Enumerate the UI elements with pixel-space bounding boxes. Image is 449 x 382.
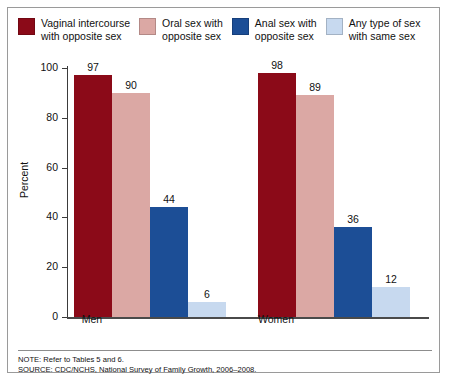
legend-label-1: Oral sex with opposite sex (162, 17, 223, 42)
legend-label-2: Anal sex with opposite sex (255, 17, 317, 42)
bar-slot: 89 (296, 66, 334, 317)
bar-value-label: 98 (257, 59, 297, 71)
y-tick-label-60: 60 (46, 161, 58, 173)
chart-legend: Vaginal intercourse with opposite sex Or… (18, 17, 432, 53)
bar-men-series-2 (150, 207, 188, 317)
footnote-block: NOTE: Refer to Tables 5 and 6. SOURCE: C… (18, 350, 432, 374)
bar-slot: 98 (258, 66, 296, 317)
bar-women-series-1 (296, 95, 334, 317)
footnote-divider (18, 350, 432, 351)
legend-swatch-icon-3 (326, 18, 343, 35)
bar-value-label: 97 (73, 61, 113, 73)
bar-value-label: 90 (111, 79, 151, 91)
y-tick-40: 40 (62, 217, 67, 218)
y-tick-20: 20 (62, 267, 67, 268)
bar-men-series-1 (112, 93, 150, 317)
y-tick-100: 100 (62, 68, 67, 69)
y-axis-title: Percent (18, 140, 30, 220)
bar-value-label: 36 (333, 213, 373, 225)
bar-slot: 12 (372, 66, 410, 317)
figure-panel: Vaginal intercourse with opposite sex Or… (7, 7, 440, 373)
y-tick-label-80: 80 (46, 111, 58, 123)
footnote-note: NOTE: Refer to Tables 5 and 6. (18, 355, 432, 365)
bar-value-label: 6 (187, 288, 227, 300)
bar-groups: 9790446 98893612 (68, 66, 429, 317)
legend-item-vaginal-intercourse-opposite-sex: Vaginal intercourse with opposite sex (18, 17, 130, 42)
y-tick-60: 60 (62, 168, 67, 169)
legend-swatch-icon-1 (139, 18, 156, 35)
y-tick-label-20: 20 (46, 260, 58, 272)
x-tick-label-men: Men (12, 313, 172, 325)
bar-slot: 90 (112, 66, 150, 317)
y-tick-80: 80 (62, 118, 67, 119)
bar-men-series-0 (74, 75, 112, 317)
x-axis-labels: Men Women (9, 313, 441, 329)
bar-value-label: 89 (295, 81, 335, 93)
legend-swatch-icon-2 (232, 18, 249, 35)
bar-slot: 97 (74, 66, 112, 317)
legend-item-oral-sex-opposite-sex: Oral sex with opposite sex (139, 17, 223, 42)
legend-item-anal-sex-opposite-sex: Anal sex with opposite sex (232, 17, 317, 42)
footnote-source: SOURCE: CDC/NCHS, National Survey of Fam… (18, 365, 432, 375)
plot-area: Percent 100806040200 9790446 98893612 Me… (8, 56, 441, 342)
plot-canvas: 100806040200 9790446 98893612 (67, 66, 429, 319)
bar-women-series-0 (258, 73, 296, 317)
legend-item-any-sex-same-sex: Any type of sex with same sex (326, 17, 421, 42)
x-tick-label-women: Women (196, 313, 356, 325)
bar-group-men: 9790446 (74, 66, 229, 317)
legend-swatch-icon-0 (18, 18, 35, 35)
bar-slot: 36 (334, 66, 372, 317)
bar-slot: 44 (150, 66, 188, 317)
bar-group-women: 98893612 (258, 66, 413, 317)
bar-women-series-2 (334, 227, 372, 317)
y-tick-label-100: 100 (40, 61, 58, 73)
bar-slot: 6 (188, 66, 226, 317)
y-tick-label-40: 40 (46, 210, 58, 222)
legend-label-3: Any type of sex with same sex (349, 17, 421, 42)
legend-label-0: Vaginal intercourse with opposite sex (41, 17, 130, 42)
bar-value-label: 12 (371, 273, 411, 285)
bar-value-label: 44 (149, 193, 189, 205)
